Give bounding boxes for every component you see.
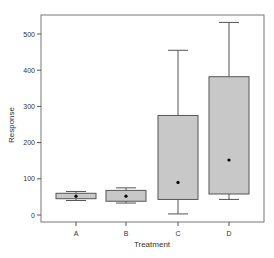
- y-tick-label: 500: [23, 31, 35, 38]
- box-A: [56, 191, 96, 200]
- y-axis: 0100200300400500: [23, 31, 41, 219]
- mean-marker: [74, 195, 77, 198]
- x-axis-label: Treatment: [134, 240, 171, 249]
- x-tick-label: B: [124, 230, 129, 237]
- mean-marker: [176, 181, 179, 184]
- y-tick-label: 100: [23, 175, 35, 182]
- y-tick-label: 200: [23, 139, 35, 146]
- x-tick-label: C: [175, 230, 180, 237]
- y-tick-label: 400: [23, 67, 35, 74]
- x-axis: ABCD: [74, 222, 232, 237]
- mean-marker: [227, 158, 230, 161]
- box-C: [158, 50, 198, 214]
- y-tick-label: 300: [23, 103, 35, 110]
- box-D: [209, 22, 249, 199]
- box-B: [106, 188, 146, 203]
- x-tick-label: D: [226, 230, 231, 237]
- x-tick-label: A: [74, 230, 79, 237]
- y-tick-label: 0: [31, 212, 35, 219]
- mean-marker: [124, 195, 127, 198]
- box-plot-chart: 0100200300400500 ABCD Treatment Response: [0, 0, 274, 258]
- boxes: [56, 22, 249, 213]
- y-axis-label: Response: [7, 106, 16, 143]
